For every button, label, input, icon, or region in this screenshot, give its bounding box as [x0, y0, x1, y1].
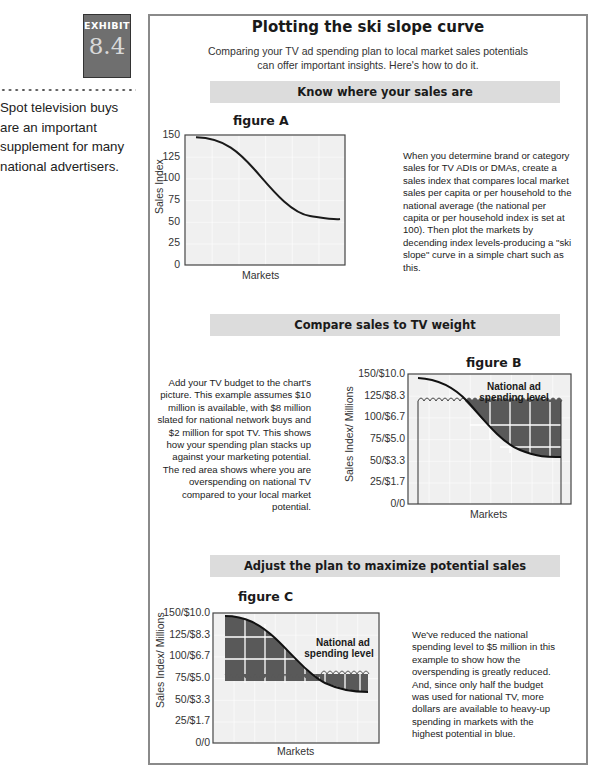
- section-a-paragraph: When you determine brand or category sal…: [403, 150, 573, 274]
- page-subtitle: Comparing your TV ad spending plan to lo…: [150, 44, 586, 72]
- section-banner-adjust-plan: Adjust the plan to maximize potential sa…: [210, 555, 560, 577]
- x-axis-label: Markets: [470, 508, 507, 520]
- section-banner-compare-sales: Compare sales to TV weight: [210, 314, 560, 336]
- x-axis-label: Markets: [277, 745, 314, 757]
- subtitle-line: Comparing your TV ad spending plan to lo…: [150, 44, 586, 58]
- y-tick: 25: [150, 236, 180, 248]
- y-tick: 75/$5.0: [350, 432, 405, 444]
- exhibit-number: 8.4: [84, 33, 130, 59]
- y-tick: 0/0: [150, 736, 210, 748]
- annotation-line1: National ad: [316, 637, 370, 648]
- subtitle-line: can offer important insights. Here's how…: [150, 58, 586, 72]
- figure-a-label: figure A: [233, 113, 289, 128]
- dotted-divider: [0, 88, 136, 92]
- side-caption: Spot television buys are an important su…: [0, 98, 140, 176]
- figure-c-label: figure C: [238, 589, 293, 604]
- y-tick: 50: [150, 215, 180, 227]
- figure-b-label: figure B: [466, 355, 522, 370]
- annotation-line2: spending level: [479, 392, 549, 403]
- annotation-line1: National ad: [487, 381, 541, 392]
- y-tick: 0/0: [350, 497, 405, 509]
- y-tick: 25/$1.7: [150, 714, 210, 726]
- x-axis-label: Markets: [242, 269, 279, 281]
- exhibit-label: EXHIBIT: [84, 20, 130, 31]
- y-tick: 150/$10.0: [350, 367, 405, 379]
- y-tick: 0: [150, 258, 180, 270]
- figure-c-chart: National ad spending level 150/$10.0 125…: [150, 604, 390, 744]
- section-b-paragraph: Add your TV budget to the chart's pictur…: [156, 377, 311, 513]
- y-axis-label: Sales Index/ Millions: [154, 612, 166, 708]
- section-c-paragraph: We've reduced the national spending leve…: [412, 629, 560, 741]
- page-title: Plotting the ski slope curve: [150, 18, 586, 36]
- y-tick: 125/$8.3: [350, 389, 405, 401]
- y-tick: 50/$3.3: [350, 454, 405, 466]
- y-tick: 25/$1.7: [350, 475, 405, 487]
- figure-b-chart: National ad spending level 150/$10.0 125…: [350, 370, 591, 505]
- y-tick: 100/$6.7: [350, 410, 405, 422]
- y-axis-label: Sales Index: [153, 159, 165, 214]
- annotation-line2: spending level: [304, 648, 374, 659]
- exhibit-badge: EXHIBIT 8.4: [83, 14, 131, 78]
- y-tick: 150: [150, 128, 180, 140]
- figure-a-chart: 150 125 100 75 50 25 0 Sales Index Marke…: [150, 128, 350, 288]
- section-banner-know-sales: Know where your sales are: [210, 81, 560, 103]
- y-axis-label: Sales Index/ Millions: [343, 386, 355, 482]
